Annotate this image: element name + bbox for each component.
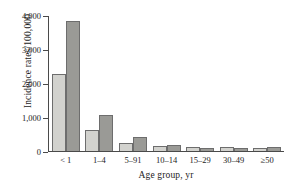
bar-group xyxy=(217,16,251,151)
chart-figure: Incidence rates/100,000 01,0002,0003,000… xyxy=(0,0,290,190)
x-axis-title: Age group, yr xyxy=(48,170,284,180)
bar xyxy=(52,74,66,151)
bar xyxy=(253,148,267,151)
bar-group xyxy=(116,16,150,151)
bar xyxy=(220,147,234,151)
bar-group xyxy=(83,16,117,151)
bar xyxy=(99,115,113,151)
y-tick-label: 0 xyxy=(37,147,41,157)
bar-group xyxy=(49,16,83,151)
y-tick-mark xyxy=(43,50,48,51)
x-tick-label: 1–4 xyxy=(83,155,117,165)
bar xyxy=(133,137,147,151)
x-tick-label: 5–91 xyxy=(116,155,150,165)
x-tick-label: < 1 xyxy=(49,155,83,165)
bar xyxy=(200,148,214,151)
bar xyxy=(186,147,200,151)
x-tick-label: ≥50 xyxy=(250,155,284,165)
bar-group xyxy=(183,16,217,151)
bar xyxy=(234,148,248,151)
y-tick-label: 2,000 xyxy=(22,79,41,89)
y-tick-label: 3,000 xyxy=(22,45,41,55)
y-tick-mark xyxy=(43,118,48,119)
y-tick-mark xyxy=(43,16,48,17)
bar xyxy=(119,143,133,151)
plot-area: 01,0002,0003,0004,000 xyxy=(48,16,284,152)
bar xyxy=(85,130,99,151)
bar xyxy=(167,145,181,151)
y-tick-label: 1,000 xyxy=(22,113,41,123)
x-tick-label: 30–49 xyxy=(217,155,251,165)
y-tick-mark xyxy=(43,84,48,85)
x-tick-label: 10–14 xyxy=(150,155,184,165)
y-tick-mark xyxy=(43,152,48,153)
bar xyxy=(66,21,80,151)
x-axis-tick-labels: < 11–45–9110–1415–2930–49≥50 xyxy=(49,155,284,165)
bar xyxy=(153,146,167,151)
bar-group xyxy=(150,16,184,151)
bar-groups xyxy=(49,16,284,151)
bar-group xyxy=(250,16,284,151)
y-tick-label: 4,000 xyxy=(22,11,41,21)
x-axis-line xyxy=(48,151,284,152)
bar xyxy=(267,147,281,151)
x-tick-label: 15–29 xyxy=(183,155,217,165)
